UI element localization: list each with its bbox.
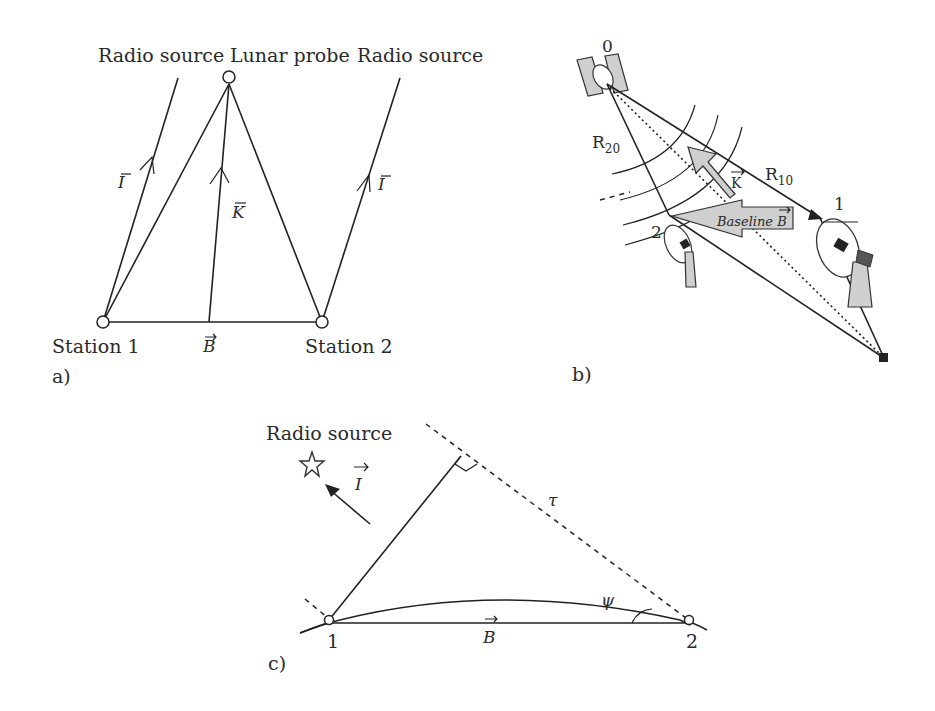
label-vector-B: B <box>482 627 496 647</box>
label-tau: τ <box>548 490 558 510</box>
ray-K <box>209 84 229 322</box>
label-point-1: 1 <box>834 194 845 214</box>
ground-point-icon <box>879 353 888 362</box>
antenna-1-icon <box>809 213 873 307</box>
label-point-0: 0 <box>602 36 613 56</box>
label-radio-source-left: Radio source <box>98 44 224 66</box>
label-point-1: 1 <box>327 630 339 652</box>
arrowhead-I-icon <box>325 484 340 497</box>
label-point-2: 2 <box>651 222 662 242</box>
label-vector-K: K <box>731 175 742 191</box>
label-radio-source-right: Radio source <box>357 44 483 66</box>
label-station-1: Station 1 <box>52 335 140 357</box>
station-2-node <box>316 316 328 328</box>
lunar-probe-node <box>223 71 235 83</box>
label-R10: R10 <box>765 164 793 188</box>
vlbi-diagram: Radio source Lunar probe Radio source I … <box>0 0 935 711</box>
dashed-line-tau <box>426 424 690 621</box>
label-radio-source: Radio source <box>266 422 392 444</box>
k-vector-arrow-icon <box>688 147 735 198</box>
label-station-2: Station 2 <box>305 335 393 357</box>
label-lunar-probe: Lunar probe <box>230 44 350 66</box>
station-1-node <box>97 316 109 328</box>
wavefront-arc <box>612 105 695 174</box>
label-vector-K: K <box>231 202 246 222</box>
ray-I-right <box>322 78 400 322</box>
panel-b: 0 Baseline B <box>572 36 888 385</box>
direction-arrow-I <box>330 490 370 524</box>
label-vector-I-left: I <box>117 172 125 192</box>
point-2-node <box>685 616 694 625</box>
label-R20: R20 <box>592 132 620 156</box>
label-vector-I-right: I <box>377 174 385 194</box>
panel-c: Radio source I τ ψ B 1 2 c) <box>266 422 707 674</box>
label-vector-I: I <box>354 474 362 494</box>
label-baseline: Baseline B <box>716 214 787 229</box>
line-projection <box>329 456 461 620</box>
dashed-line-extension <box>305 599 328 618</box>
arrowhead-K-icon <box>210 168 229 184</box>
satellite-icon <box>577 54 628 96</box>
point-1-node <box>325 616 334 625</box>
label-psi: ψ <box>601 590 615 610</box>
star-icon <box>300 452 324 476</box>
caption-c: c) <box>268 652 286 674</box>
label-point-2: 2 <box>686 630 698 652</box>
vector-arrow-icon <box>485 616 497 622</box>
vector-arrow-icon <box>354 463 368 471</box>
caption-b: b) <box>572 363 592 385</box>
caption-a: a) <box>52 365 71 387</box>
panel-a: Radio source Lunar probe Radio source I … <box>52 44 483 387</box>
